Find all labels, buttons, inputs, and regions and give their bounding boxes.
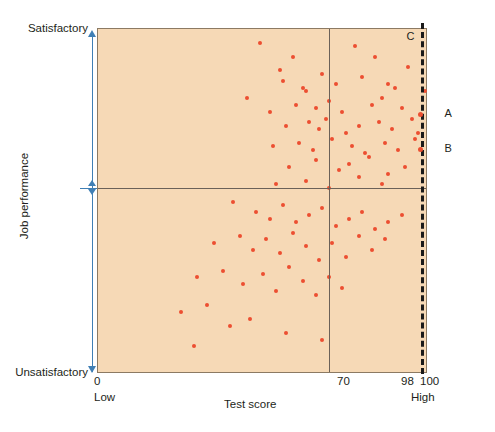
data-point bbox=[416, 131, 420, 135]
data-point bbox=[330, 241, 334, 245]
data-point bbox=[410, 117, 414, 121]
data-point bbox=[245, 96, 249, 100]
data-point bbox=[357, 234, 361, 238]
y-axis-top-label: Satisfactory bbox=[0, 22, 88, 34]
data-point bbox=[274, 182, 278, 186]
data-point bbox=[294, 103, 298, 107]
data-point bbox=[340, 110, 344, 114]
data-point bbox=[360, 210, 364, 214]
data-point bbox=[301, 279, 305, 283]
data-point bbox=[287, 165, 291, 169]
data-point bbox=[334, 224, 338, 228]
data-point bbox=[192, 344, 196, 348]
data-point bbox=[370, 103, 374, 107]
data-point bbox=[281, 79, 285, 83]
data-points-layer bbox=[98, 29, 426, 372]
data-point bbox=[281, 203, 285, 207]
data-point bbox=[264, 237, 268, 241]
data-point bbox=[195, 275, 199, 279]
data-point bbox=[268, 217, 272, 221]
data-point bbox=[400, 106, 404, 110]
data-point bbox=[205, 303, 209, 307]
data-point bbox=[284, 331, 288, 335]
data-point bbox=[377, 120, 381, 124]
x-tick-hundred: 100 bbox=[420, 376, 439, 388]
data-point bbox=[294, 220, 298, 224]
y-axis-up-arrow-icon bbox=[88, 30, 96, 37]
data-point bbox=[291, 231, 295, 235]
data-point bbox=[238, 234, 242, 238]
data-point bbox=[304, 89, 308, 93]
data-point bbox=[179, 310, 183, 314]
data-point bbox=[373, 55, 377, 59]
data-point bbox=[278, 68, 282, 72]
data-point bbox=[251, 248, 255, 252]
data-point bbox=[386, 82, 390, 86]
data-point bbox=[367, 155, 371, 159]
data-point bbox=[231, 200, 235, 204]
y-axis-line bbox=[92, 36, 93, 372]
annotation-label-c: C bbox=[406, 31, 414, 42]
data-point bbox=[413, 137, 417, 141]
data-point bbox=[386, 220, 390, 224]
data-point bbox=[373, 227, 377, 231]
data-point bbox=[284, 124, 288, 128]
data-point bbox=[304, 179, 308, 183]
y-axis-midpoint-up-arrow-icon bbox=[88, 180, 96, 186]
data-point bbox=[274, 289, 278, 293]
data-point bbox=[297, 141, 301, 145]
data-point bbox=[317, 127, 321, 131]
data-point bbox=[314, 293, 318, 297]
data-point bbox=[383, 141, 387, 145]
data-point bbox=[307, 213, 311, 217]
x-tick-ninetyeight: 98 bbox=[401, 376, 414, 388]
data-point bbox=[380, 182, 384, 186]
data-point bbox=[386, 172, 390, 176]
data-point bbox=[278, 251, 282, 255]
y-axis-down-arrow-icon bbox=[88, 366, 96, 373]
y-axis-bottom-label: Unsatisfactory bbox=[0, 366, 88, 378]
data-point bbox=[268, 110, 272, 114]
x-axis-title: Test score bbox=[224, 399, 276, 411]
scatter-plot-figure: Satisfactory Unsatisfactory Job performa… bbox=[0, 0, 495, 432]
data-point bbox=[320, 72, 324, 76]
test-score-cutoff-line bbox=[329, 29, 330, 372]
data-point bbox=[314, 106, 318, 110]
data-point bbox=[350, 144, 354, 148]
data-point bbox=[357, 175, 361, 179]
data-point bbox=[258, 41, 262, 45]
data-point bbox=[380, 96, 384, 100]
data-point bbox=[347, 162, 351, 166]
data-point bbox=[271, 144, 275, 148]
data-point bbox=[344, 131, 348, 135]
data-point bbox=[337, 168, 341, 172]
data-point bbox=[228, 324, 232, 328]
data-point bbox=[307, 120, 311, 124]
data-point bbox=[406, 65, 410, 69]
y-axis-midpoint-down-arrow-icon bbox=[88, 189, 96, 195]
data-point bbox=[221, 269, 225, 273]
data-point bbox=[403, 165, 407, 169]
x-tick-zero: 0 bbox=[94, 376, 100, 388]
data-point bbox=[400, 213, 404, 217]
annotation-label-a: A bbox=[444, 108, 451, 119]
plot-area bbox=[97, 28, 427, 373]
data-point bbox=[291, 55, 295, 59]
job-performance-cutoff-line bbox=[98, 188, 426, 189]
annotation-label-b: B bbox=[444, 143, 451, 154]
data-point bbox=[330, 137, 334, 141]
data-point bbox=[334, 82, 338, 86]
data-point bbox=[254, 210, 258, 214]
data-point bbox=[370, 248, 374, 252]
data-point bbox=[314, 158, 318, 162]
x-label-high: High bbox=[411, 392, 435, 404]
data-point bbox=[357, 124, 361, 128]
data-point bbox=[320, 206, 324, 210]
data-point bbox=[360, 75, 364, 79]
data-point bbox=[344, 255, 348, 259]
data-point bbox=[396, 148, 400, 152]
data-point bbox=[261, 272, 265, 276]
data-point bbox=[347, 217, 351, 221]
data-point bbox=[390, 127, 394, 131]
data-point bbox=[393, 86, 397, 90]
